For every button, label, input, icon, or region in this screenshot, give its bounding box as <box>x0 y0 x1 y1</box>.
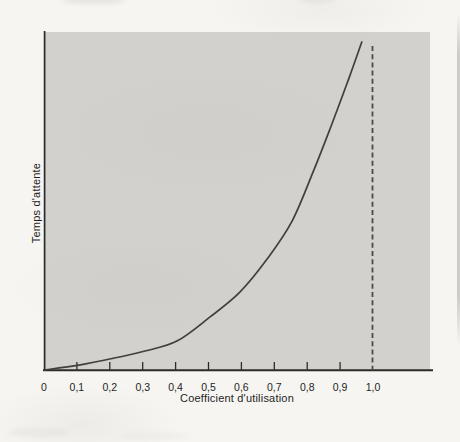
x-tick-label: 0,5 <box>201 381 216 393</box>
x-tick-label: 0,8 <box>300 381 315 393</box>
x-tick-label: 0,3 <box>135 381 150 393</box>
x-tick-label: 0 <box>41 381 47 393</box>
y-axis-title: Temps d'attente <box>30 125 42 281</box>
x-tick-label: 0,1 <box>70 381 85 393</box>
x-axis-title: Coefficient d'utilisation <box>147 392 327 404</box>
x-tick-label: 0,4 <box>168 381 183 393</box>
chart-canvas: 00,10,20,30,40,50,60,70,80,91,0 <box>0 0 460 442</box>
x-tick-labels-group: 00,10,20,30,40,50,60,70,80,91,0 <box>41 381 380 393</box>
x-tick-label: 0,7 <box>267 381 282 393</box>
x-tick-label: 0,2 <box>102 381 117 393</box>
x-tick-label: 1,0 <box>366 381 381 393</box>
x-tick-label: 0,6 <box>234 381 249 393</box>
x-tick-label: 0,9 <box>333 381 348 393</box>
figure: 00,10,20,30,40,50,60,70,80,91,0 Temps d'… <box>0 0 460 442</box>
